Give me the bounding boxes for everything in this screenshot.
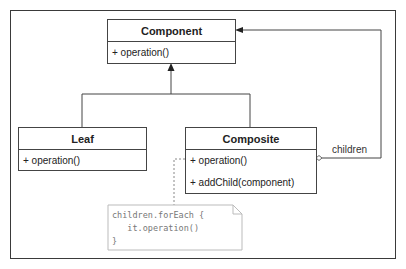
class-composite-addchild: + addChild(component) bbox=[186, 172, 316, 194]
class-composite-name: Composite bbox=[186, 128, 316, 150]
class-component-name: Component bbox=[108, 20, 235, 42]
class-leaf-operation: + operation() bbox=[19, 150, 146, 172]
association-arrow-icon bbox=[235, 27, 243, 33]
note-line-2: it.operation() bbox=[112, 223, 199, 234]
class-leaf: Leaf + operation() bbox=[18, 127, 147, 171]
note-line-3: } bbox=[112, 236, 117, 247]
note-anchor-line bbox=[174, 159, 185, 205]
class-leaf-name: Leaf bbox=[19, 128, 146, 150]
class-composite-operation: + operation() bbox=[186, 150, 316, 172]
class-composite: Composite + operation() + addChild(compo… bbox=[185, 127, 317, 194]
note-line-1: children.forEach { bbox=[112, 210, 204, 221]
children-label: children bbox=[332, 144, 367, 155]
class-component: Component + operation() bbox=[107, 19, 236, 64]
inheritance-arrow-icon bbox=[168, 63, 175, 71]
class-component-operation: + operation() bbox=[108, 42, 235, 64]
